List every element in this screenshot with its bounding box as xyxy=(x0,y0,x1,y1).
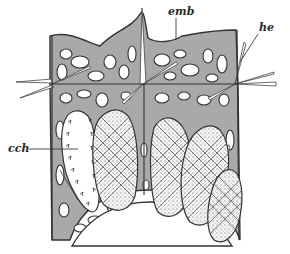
label-cch: cch xyxy=(8,142,29,155)
label-emb: emb xyxy=(168,5,195,18)
label-he-group: he xyxy=(240,21,274,62)
label-he: he xyxy=(259,21,274,34)
sponge-section-figure: emb he cch xyxy=(0,0,290,254)
